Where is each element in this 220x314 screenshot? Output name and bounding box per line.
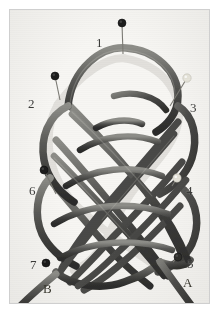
pin-label-7: 7 — [30, 258, 37, 271]
pin-label-6: 6 — [29, 184, 36, 197]
pin-label-5: 5 — [187, 257, 194, 270]
pin-label-4: 4 — [186, 184, 193, 197]
pin-label-2: 2 — [28, 97, 35, 110]
pin-label-1: 1 — [96, 36, 103, 49]
pin-head-3[interactable] — [183, 74, 191, 82]
pin-head-7[interactable] — [42, 259, 50, 267]
pin-label-3: 3 — [190, 101, 197, 114]
photo-frame: 1234567AB — [9, 9, 210, 304]
knot-figure: 1234567AB — [0, 0, 220, 314]
endpoint-label-A: A — [183, 276, 192, 289]
knot-illustration — [10, 10, 209, 303]
pin-head-2[interactable] — [51, 72, 59, 80]
pin-head-1[interactable] — [118, 19, 126, 27]
pin-head-4[interactable] — [173, 174, 181, 182]
pin-head-5[interactable] — [174, 253, 182, 261]
endpoint-label-B: B — [43, 282, 52, 295]
pin-head-6[interactable] — [40, 166, 48, 174]
